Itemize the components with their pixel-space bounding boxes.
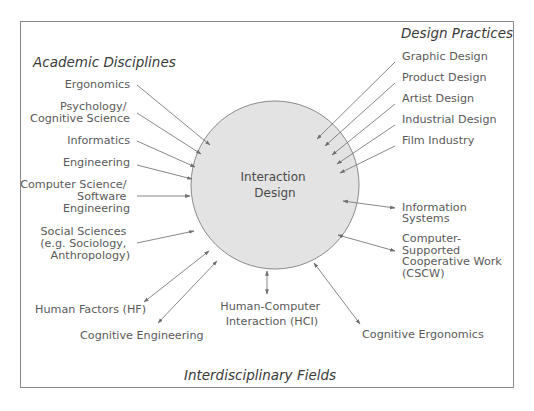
svg-text:Cognitive Ergonomics: Cognitive Ergonomics [362,328,484,341]
interaction-design-diagram: Interaction Design Academic Disciplines … [0,0,534,411]
svg-text:Human Factors (HF): Human Factors (HF) [35,303,146,316]
svg-text:Informatics: Informatics [67,134,130,147]
center-label-line-1: Interaction [241,170,306,184]
svg-text:Industrial Design: Industrial Design [402,113,497,126]
academic-disciplines-title: Academic Disciplines [32,54,176,70]
svg-text:Ergonomics: Ergonomics [65,78,131,91]
svg-text:Cognitive Engineering: Cognitive Engineering [80,329,204,342]
svg-text:Film Industry: Film Industry [402,134,475,147]
svg-text:Artist Design: Artist Design [402,92,474,105]
svg-text:Social Sciences (e.g. So: Social Sciences (e.g. Sociology, Anthrop… [40,225,130,262]
interaction-design-circle [191,101,359,269]
design-practices-title: Design Practices [401,25,513,41]
svg-text:Graphic Design: Graphic Design [402,50,488,63]
svg-text:Engineering: Engineering [63,156,130,169]
interdisciplinary-fields-title: Interdisciplinary Fields [184,367,336,383]
center-label-line-2: Design [254,186,295,200]
svg-text:Product Design: Product Design [402,71,487,84]
